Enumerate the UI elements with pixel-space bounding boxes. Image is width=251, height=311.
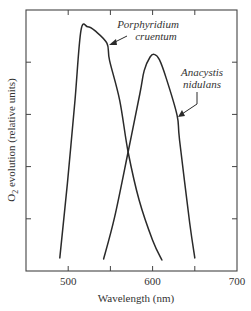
chart: 500600700 Porphyridium cruentum Anacysti… xyxy=(0,0,251,311)
arrow-anacystis xyxy=(182,92,197,114)
arrowhead-porphyridium xyxy=(109,39,117,45)
x-tick-label-600: 600 xyxy=(144,275,161,287)
ticks xyxy=(26,10,237,271)
arrowhead-anacystis xyxy=(178,110,185,117)
annotation-porphyridium-line2: cruentum xyxy=(135,30,177,42)
x-tick-label-700: 700 xyxy=(229,275,246,287)
x-tick-label-500: 500 xyxy=(60,275,77,287)
x-axis-label: Wavelength (nm) xyxy=(98,292,175,305)
curves xyxy=(60,24,195,260)
series-line-anacystis-nidulans xyxy=(104,54,195,259)
annotation-anacystis-line2: nidulans xyxy=(183,78,221,90)
x-tick-labels: 500600700 xyxy=(60,275,246,287)
series-line-porphyridium-cruentum xyxy=(60,24,162,260)
plot-frame xyxy=(26,10,237,271)
annotation-anacystis-line1: Anacystis xyxy=(180,66,223,78)
y-axis-label-main: O xyxy=(5,194,17,202)
annotation-porphyridium-line1: Porphyridium xyxy=(116,18,179,30)
y-axis-label-rest: evolution (relative units) xyxy=(5,78,18,190)
y-axis-label: O2 evolution (relative units) xyxy=(5,78,20,202)
